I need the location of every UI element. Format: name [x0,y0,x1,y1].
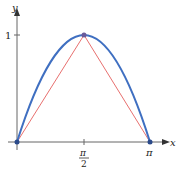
y-axis-label: y [11,2,18,13]
point-pi [148,140,153,145]
x-tick-pi-label: π [145,147,153,158]
x-axis-label: x [170,137,176,148]
diagram: y x 1 π 2 π [0,0,177,169]
x-tick-half-den: 2 [81,159,87,169]
point-origin [15,140,20,145]
y-tick-label: 1 [5,30,11,41]
sine-curve [17,35,150,142]
point-peak [82,33,87,38]
x-tick-half-num: π [79,148,87,158]
